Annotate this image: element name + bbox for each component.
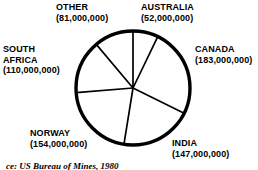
pie-label-canada-name: CANADA <box>195 44 252 55</box>
pie-label-india-value: (147,000,000) <box>172 149 229 160</box>
pie-slice-divider-canada <box>133 37 158 88</box>
pie-label-other-value: (81,000,000) <box>56 13 108 24</box>
pie-slice-divider-south-africa <box>76 88 133 93</box>
pie-label-australia-value: (52,000,000) <box>141 13 194 24</box>
pie-label-south-africa-name-line1: SOUTH <box>3 44 60 55</box>
pie-label-norway: NORWAY (154,000,000) <box>30 128 87 149</box>
pie-label-australia-name: AUSTRALIA <box>141 2 194 13</box>
pie-label-norway-value: (154,000,000) <box>30 139 87 150</box>
pie-chart-figure: OTHER (81,000,000) AUSTRALIA (52,000,000… <box>0 0 258 170</box>
pie-label-india-name: INDIA <box>172 138 229 149</box>
pie-label-canada: CANADA (183,000,000) <box>195 44 252 65</box>
pie-label-south-africa: SOUTH AFRICA (110,000,000) <box>3 44 60 76</box>
pie-label-south-africa-name-line2: AFRICA <box>3 55 60 66</box>
pie-label-india: INDIA (147,000,000) <box>172 138 229 159</box>
pie-label-canada-value: (183,000,000) <box>195 55 252 66</box>
pie-label-other: OTHER (81,000,000) <box>56 2 108 23</box>
pie-slice-divider-norway <box>124 88 133 144</box>
pie-label-australia: AUSTRALIA (52,000,000) <box>141 2 194 23</box>
pie-label-south-africa-value: (110,000,000) <box>3 65 60 76</box>
figure-source-caption: ce: US Bureau of Mines, 1980 <box>6 161 119 170</box>
pie-slice-divider-india <box>133 88 184 113</box>
pie-slice-divider-other <box>96 44 133 88</box>
pie-label-other-name: OTHER <box>56 2 108 13</box>
pie-label-norway-name: NORWAY <box>30 128 87 139</box>
